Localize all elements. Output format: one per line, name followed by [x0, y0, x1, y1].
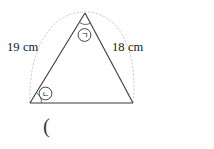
left-side-length-label: 19 cm [7, 40, 38, 55]
apex-angle-arc [80, 23, 91, 25]
apex-angle-marker-label: ㄱ [81, 31, 88, 40]
right-side-length-label: 18 cm [112, 40, 143, 55]
triangle-side-right [85, 13, 133, 103]
triangle-side-left [30, 13, 85, 103]
answer-parenthesis: ( [43, 116, 50, 137]
geometry-figure-canvas: ㄱ ㄴ 19 cm 18 cm ( [0, 0, 214, 149]
bottom-left-angle-marker-label: ㄴ [42, 90, 49, 99]
triangle-diagram-svg: ㄱ ㄴ [0, 0, 214, 149]
